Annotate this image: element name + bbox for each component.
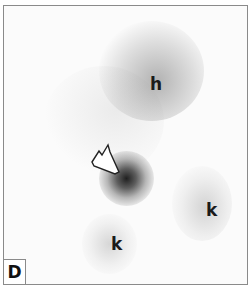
panel-label-box: D (4, 259, 26, 284)
label-k-lower: k (111, 236, 122, 253)
uptake-region-k-right (172, 166, 232, 241)
uptake-region-k-lower (82, 214, 137, 274)
label-k-right: k (206, 202, 217, 219)
scan-image-frame: h k k D (3, 5, 248, 285)
panel-label: D (7, 262, 21, 282)
label-h: h (150, 76, 162, 93)
arrow-icon (90, 142, 124, 178)
